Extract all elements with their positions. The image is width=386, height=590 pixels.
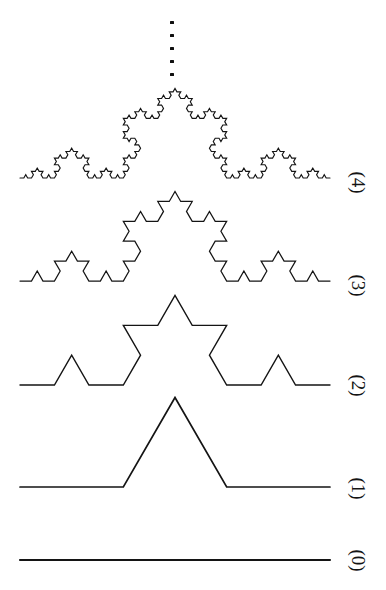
ellipsis-dot [170, 21, 173, 24]
koch-curve-stage-3 [20, 192, 330, 281]
iteration-label-0: (0) [349, 541, 368, 581]
koch-curve-stage-2 [20, 296, 330, 385]
koch-curve-figure: (0) (1) (2) (3) (4) [0, 0, 386, 590]
iteration-label-4: (4) [349, 163, 368, 203]
iteration-label-3: (3) [349, 266, 368, 306]
ellipsis-dot [170, 34, 173, 37]
koch-curve-stage-4 [20, 89, 330, 178]
iteration-label-2: (2) [349, 366, 368, 406]
ellipsis-dot [170, 60, 173, 63]
koch-curve-canvas [0, 0, 386, 590]
iteration-label-1: (1) [349, 469, 368, 509]
ellipsis-dot [170, 47, 173, 50]
koch-curve-stage-1 [20, 398, 330, 487]
ellipsis-dot [170, 73, 173, 76]
